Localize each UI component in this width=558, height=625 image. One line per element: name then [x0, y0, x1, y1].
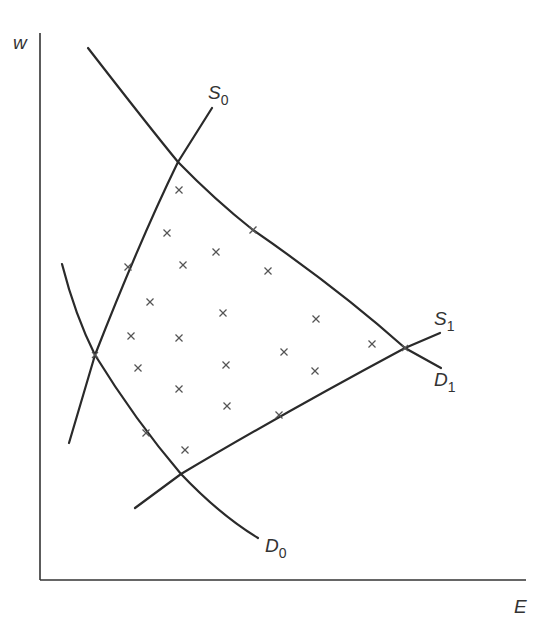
x-mark-icon [182, 447, 189, 454]
x-axis-label: E [514, 596, 527, 617]
label-s1: S1 [434, 308, 455, 334]
x-mark-icon [176, 187, 183, 194]
label-s0: S0 [208, 82, 229, 108]
demand-curve-d0 [62, 264, 258, 538]
x-mark-icon [213, 249, 220, 256]
supply-curve-s1 [135, 333, 440, 508]
label-d0: D0 [265, 535, 287, 561]
demand-curve-d1 [88, 48, 441, 368]
x-mark-icon [369, 341, 376, 348]
equilibrium-markers [125, 187, 376, 454]
x-mark-icon [223, 362, 230, 369]
on-curve-markers [92, 345, 408, 358]
x-mark-icon [224, 403, 231, 410]
x-mark-icon [164, 230, 171, 237]
x-mark-icon [135, 365, 142, 372]
x-mark-icon [313, 316, 320, 323]
x-mark-icon [312, 368, 319, 375]
supply-curve-s0 [69, 108, 212, 443]
x-mark-icon [265, 268, 272, 275]
x-mark-icon [281, 349, 288, 356]
x-mark-icon [128, 333, 135, 340]
labor-market-diagram: w E S0 S1 D0 D1 [0, 0, 558, 625]
label-d1: D1 [434, 369, 456, 395]
y-axis-label: w [13, 32, 28, 53]
x-mark-icon [147, 299, 154, 306]
curves [62, 48, 441, 538]
curve-labels: S0 S1 D0 D1 [208, 82, 456, 561]
x-mark-icon [180, 262, 187, 269]
x-mark-icon [250, 227, 257, 234]
x-mark-icon [176, 386, 183, 393]
x-mark-icon [220, 310, 227, 317]
x-mark-icon [176, 335, 183, 342]
